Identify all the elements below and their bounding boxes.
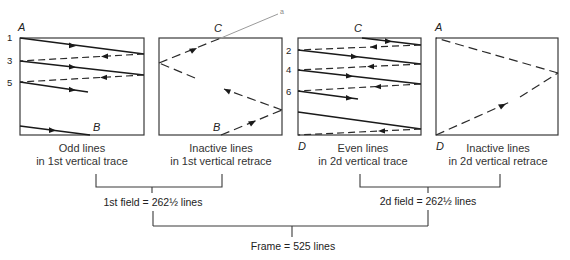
panel-frame bbox=[20, 38, 144, 135]
vertical-retrace-path bbox=[159, 38, 221, 63]
scan-line-1 bbox=[20, 38, 144, 54]
field-2-label: 2d field = 262½ lines bbox=[380, 195, 477, 207]
frame-bracket: Frame = 525 lines bbox=[153, 226, 428, 252]
panel-caption: Odd lines bbox=[59, 142, 106, 154]
panel-caption: in 2d vertical retrace bbox=[448, 155, 547, 167]
line-number: 2 bbox=[286, 45, 291, 56]
frame-label: Frame = 525 lines bbox=[251, 240, 335, 252]
panel-caption: in 1st vertical trace bbox=[36, 155, 128, 167]
bracket bbox=[96, 174, 222, 187]
point-label-b: B bbox=[213, 121, 220, 133]
point-label-d: D bbox=[298, 140, 306, 152]
panel-caption: in 2d vertical trace bbox=[318, 155, 407, 167]
horizontal-retrace bbox=[20, 75, 144, 82]
vertical-retrace-path bbox=[159, 63, 195, 78]
scan-line-2 bbox=[298, 50, 421, 64]
line-number: 6 bbox=[286, 86, 291, 97]
bracket bbox=[360, 174, 500, 187]
retrace-continuation bbox=[221, 14, 278, 38]
arrow-left-icon bbox=[378, 128, 385, 133]
line-number: 4 bbox=[286, 64, 291, 75]
arrow-left-icon bbox=[370, 44, 377, 49]
point-label-a: A bbox=[17, 21, 25, 33]
field-1-bracket: 1st field = 262½ lines bbox=[96, 174, 222, 226]
vertical-retrace-path bbox=[436, 102, 510, 135]
panel-retrace-1: C B a Inactive lines in 1st vertical ret… bbox=[159, 8, 284, 167]
line-number: 1 bbox=[7, 32, 12, 43]
panel-frame bbox=[159, 38, 282, 135]
point-label-c: C bbox=[354, 22, 362, 34]
arrow-left-icon bbox=[374, 84, 381, 89]
horizontal-retrace bbox=[298, 84, 421, 91]
panel-caption: in 1st vertical retrace bbox=[170, 155, 271, 167]
line-number: 3 bbox=[7, 55, 12, 66]
point-label-a-small: a bbox=[280, 8, 284, 15]
field-2-bracket: 2d field = 262½ lines bbox=[360, 174, 500, 226]
horizontal-retrace bbox=[298, 45, 421, 50]
field-1-label: 1st field = 262½ lines bbox=[104, 196, 203, 208]
panel-retrace-2: A D Inactive lines in 2d vertical retrac… bbox=[434, 21, 558, 167]
vertical-retrace-path bbox=[224, 89, 282, 110]
scan-line-4 bbox=[298, 70, 421, 84]
horizontal-retrace bbox=[298, 129, 421, 135]
arrow-left-icon bbox=[101, 54, 108, 59]
horizontal-retrace bbox=[298, 64, 421, 70]
interlaced-scanning-diagram: A B 1 3 5 Odd lines in 1st vertical trac… bbox=[0, 0, 570, 260]
panel-caption: Inactive lines bbox=[189, 142, 253, 154]
line-number: 5 bbox=[7, 77, 12, 88]
panel-even-lines: C D 2 4 6 Even lines in 2d vertical trac… bbox=[286, 22, 421, 167]
panel-frame bbox=[436, 38, 558, 135]
arrow-up-left-icon bbox=[224, 89, 231, 95]
scan-line-last bbox=[298, 112, 421, 129]
panel-caption: Even lines bbox=[338, 142, 389, 154]
point-label-a: A bbox=[434, 21, 442, 33]
vertical-retrace-path bbox=[520, 73, 558, 97]
scan-line-3 bbox=[20, 61, 144, 75]
arrow-left-icon bbox=[367, 64, 374, 69]
arrow-up-right-icon bbox=[498, 104, 506, 110]
panel-odd-lines: A B 1 3 5 Odd lines in 1st vertical trac… bbox=[7, 21, 144, 167]
vertical-retrace-path bbox=[436, 38, 558, 73]
point-label-d: D bbox=[436, 140, 444, 152]
point-label-c: C bbox=[214, 22, 222, 34]
panel-caption: Inactive lines bbox=[466, 142, 530, 154]
scan-line-5 bbox=[20, 82, 88, 92]
point-label-b: B bbox=[93, 121, 100, 133]
horizontal-retrace bbox=[20, 54, 144, 61]
arrow-left-icon bbox=[100, 75, 107, 80]
